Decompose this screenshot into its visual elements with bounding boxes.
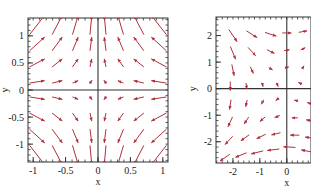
field-arrow xyxy=(307,103,311,105)
field-arrow xyxy=(52,81,62,83)
field-arrow xyxy=(104,113,106,121)
field-arrow xyxy=(90,59,92,67)
field-arrow xyxy=(267,149,279,151)
y-tick-label: 2 xyxy=(207,30,212,41)
field-arrow xyxy=(90,80,92,83)
field-arrow xyxy=(151,81,166,83)
y-tick-label: 0.5 xyxy=(12,57,25,68)
y-tick-label: 1 xyxy=(19,30,24,41)
field-arrow xyxy=(248,47,256,55)
field-arrow xyxy=(302,66,304,69)
x-tick-label: 0 xyxy=(284,166,289,177)
field-arrow xyxy=(90,37,92,51)
field-arrow xyxy=(305,137,311,139)
field-arrow xyxy=(306,120,311,122)
field-arrow xyxy=(241,135,249,141)
field-arrow xyxy=(229,30,237,42)
field-arrow xyxy=(272,133,281,135)
field-arrow xyxy=(118,81,124,83)
field-arrow xyxy=(301,48,306,50)
field-arrow xyxy=(220,154,230,161)
field-arrow xyxy=(90,113,92,121)
field-arrow xyxy=(251,151,263,154)
field-arrow xyxy=(134,81,144,83)
x-tick-label: 1 xyxy=(160,165,165,176)
field-arrow xyxy=(294,100,298,101)
y-tick-label: -0.5 xyxy=(8,112,24,123)
field-arrow xyxy=(30,129,45,143)
y-tick-label: -2 xyxy=(204,136,212,147)
field-arrow xyxy=(134,59,144,67)
x-tick-label: 0 xyxy=(96,165,101,176)
field-arrow xyxy=(276,98,279,100)
field-arrow xyxy=(246,100,248,107)
field-arrow xyxy=(73,113,79,121)
field-arrow xyxy=(283,147,295,148)
field-arrow xyxy=(104,97,106,100)
field-arrow xyxy=(104,80,106,83)
field-arrow xyxy=(151,97,166,99)
y-tick-label: -1 xyxy=(16,139,24,150)
field-arrow xyxy=(257,134,266,139)
field-arrow xyxy=(134,37,144,51)
field-arrow xyxy=(301,150,311,152)
x-tick-label: 0.5 xyxy=(124,165,137,176)
field-arrow xyxy=(52,97,62,99)
field-arrow xyxy=(265,32,276,36)
field-arrow xyxy=(73,129,79,143)
field-arrow xyxy=(73,97,79,99)
y-tick-label: 1 xyxy=(207,57,212,68)
field-arrow xyxy=(285,67,289,68)
field-arrow xyxy=(269,68,273,70)
field-arrow xyxy=(52,37,62,51)
field-arrow xyxy=(90,129,92,143)
field-arrow xyxy=(261,100,263,105)
field-arrow xyxy=(73,59,79,67)
field-arrow xyxy=(250,67,253,74)
field-arrow xyxy=(52,129,62,143)
vector-field-figure: -1-0.500.51-1-0.500.51xy -2-10-2-1012xy xyxy=(0,0,311,196)
y-tick-label: -1 xyxy=(204,110,212,121)
field-arrow xyxy=(151,129,166,143)
x-axis-label: x xyxy=(284,177,289,188)
field-arrow xyxy=(118,59,124,67)
field-arrow xyxy=(247,31,258,38)
field-arrow xyxy=(104,129,106,143)
x-tick-label: -1 xyxy=(256,166,264,177)
field-arrow xyxy=(73,81,79,83)
field-arrow xyxy=(134,113,144,121)
field-arrow xyxy=(230,46,235,59)
field-arrow xyxy=(232,64,234,75)
x-axis-label: x xyxy=(96,176,101,187)
right-quiver-plot: -2-10-2-1012xy xyxy=(187,17,311,188)
field-arrow xyxy=(225,136,233,144)
y-axis-label: y xyxy=(0,88,10,93)
field-arrow xyxy=(30,97,45,99)
field-arrow xyxy=(118,97,124,99)
field-arrow xyxy=(260,117,265,122)
field-arrow xyxy=(277,83,279,87)
field-arrow xyxy=(230,100,232,110)
x-tick-label: -1 xyxy=(29,165,37,176)
field-arrow xyxy=(244,117,249,124)
field-arrow xyxy=(235,153,246,158)
field-arrow xyxy=(262,83,263,87)
field-arrow xyxy=(275,115,280,117)
field-arrow xyxy=(52,59,62,67)
field-arrow xyxy=(134,129,144,143)
field-arrow xyxy=(118,37,124,51)
field-arrow xyxy=(30,81,45,83)
y-tick-label: 0 xyxy=(207,83,212,94)
field-arrow xyxy=(299,31,307,32)
field-arrow xyxy=(151,59,166,67)
field-arrow xyxy=(73,37,79,51)
field-arrow xyxy=(151,113,166,121)
field-arrow xyxy=(228,117,233,127)
field-arrow xyxy=(267,50,275,54)
field-arrow xyxy=(284,50,289,51)
field-arrow xyxy=(104,59,106,67)
field-arrow xyxy=(134,97,144,99)
field-arrow xyxy=(151,37,166,51)
field-arrow xyxy=(298,82,302,84)
field-arrow xyxy=(118,113,124,121)
